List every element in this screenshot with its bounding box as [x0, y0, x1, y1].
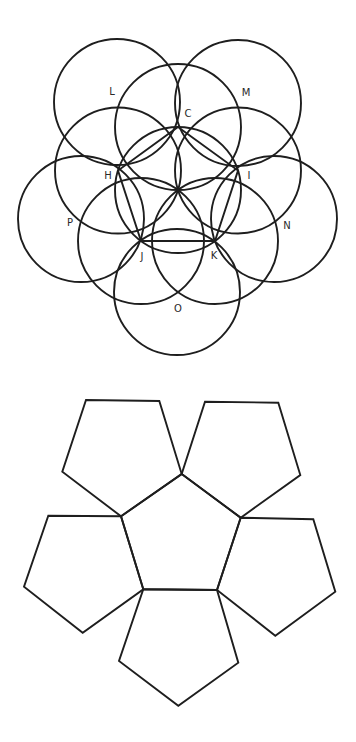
point-label-m: M [242, 87, 251, 98]
point-label-i: I [248, 170, 251, 181]
point-label-p: P [67, 217, 73, 228]
pentagon-face-left [24, 516, 143, 633]
geometry-figure: LMCHIPNJKO [0, 0, 356, 742]
point-label-j: J [140, 251, 144, 262]
pentagon-face-top-right [182, 402, 301, 518]
pentagon-face-bottom [119, 589, 238, 705]
point-label-h: H [104, 170, 112, 181]
point-label-l: L [109, 86, 115, 97]
pentagon-face-right [217, 518, 335, 636]
point-label-c: C [185, 108, 192, 119]
pentagon-face-top-left [62, 400, 181, 516]
point-label-o: O [174, 303, 182, 314]
point-label-n: N [283, 220, 290, 231]
point-label-k: K [211, 250, 218, 261]
pentagon-net [24, 400, 335, 706]
